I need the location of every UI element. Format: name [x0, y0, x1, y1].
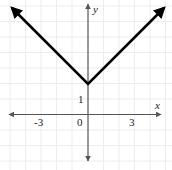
- x-tick-label-pos3: 3: [129, 117, 135, 128]
- x-tick-label-neg3: -3: [34, 117, 43, 128]
- coordinate-graph-figure: -3 0 3 1 x y: [0, 0, 172, 170]
- y-axis-label: y: [93, 4, 98, 15]
- origin-label: 0: [77, 117, 83, 128]
- x-axis-label: x: [155, 100, 160, 111]
- y-tick-label-one: 1: [78, 94, 84, 105]
- graph-canvas: [0, 0, 172, 170]
